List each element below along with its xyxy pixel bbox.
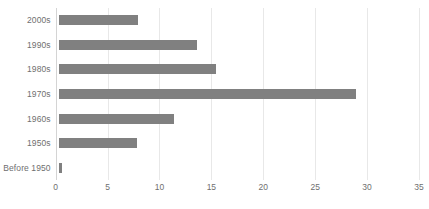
bar-row: Before 1950 — [56, 156, 419, 181]
bar-row: 2000s — [56, 8, 419, 33]
bar-row: 1960s — [56, 106, 419, 131]
x-tick-label: 25 — [310, 182, 319, 192]
plot-area: 2000s 1990s 1980s 1970s 1960s 1950s Befo… — [56, 8, 419, 180]
x-tick-label: 5 — [105, 182, 110, 192]
bar-before-1950[interactable] — [59, 163, 62, 173]
x-tick-label: 15 — [207, 182, 216, 192]
category-label: 1960s — [27, 114, 51, 124]
category-label: 1980s — [27, 64, 51, 74]
bar-row: 1990s — [56, 33, 419, 58]
bar-1960s[interactable] — [59, 114, 174, 124]
bar-chart: 2000s 1990s 1980s 1970s 1960s 1950s Befo… — [0, 0, 429, 209]
x-tick-label: 20 — [259, 182, 268, 192]
x-axis: 0 5 10 15 20 25 30 35 — [56, 182, 419, 202]
x-tick-label: 35 — [414, 182, 423, 192]
bar-1990s[interactable] — [59, 40, 197, 50]
bar-1970s[interactable] — [59, 89, 356, 99]
category-label: 1990s — [27, 40, 51, 50]
x-tick-label: 10 — [155, 182, 164, 192]
bar-1950s[interactable] — [59, 138, 137, 148]
category-label: 1970s — [27, 89, 51, 99]
bar-row: 1970s — [56, 82, 419, 107]
category-label: 1950s — [27, 138, 51, 148]
category-label: 2000s — [27, 15, 51, 25]
category-label: Before 1950 — [3, 163, 50, 173]
gridline-35 — [419, 8, 420, 180]
x-tick-label: 0 — [53, 182, 58, 192]
x-tick-label: 30 — [362, 182, 371, 192]
bar-2000s[interactable] — [59, 15, 138, 25]
bar-1980s[interactable] — [59, 64, 216, 74]
bar-row: 1980s — [56, 57, 419, 82]
bar-row: 1950s — [56, 131, 419, 156]
